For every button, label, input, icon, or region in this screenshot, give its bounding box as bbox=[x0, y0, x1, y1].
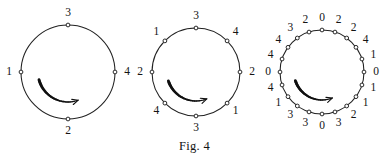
point-marker bbox=[360, 83, 364, 87]
point-marker bbox=[345, 104, 349, 108]
point-marker bbox=[307, 110, 311, 114]
point-label: 1 bbox=[233, 104, 239, 116]
diagram-circle-20-points: 02241011230331404432 bbox=[265, 11, 379, 131]
point-label: 2 bbox=[137, 65, 143, 77]
circle-outline bbox=[280, 30, 364, 114]
point-marker bbox=[225, 101, 229, 105]
point-label: 3 bbox=[336, 116, 342, 128]
figure-svg: 34213421342102241011230331404432 bbox=[0, 0, 389, 162]
point-label: 4 bbox=[124, 65, 130, 77]
point-marker bbox=[320, 112, 324, 116]
point-label: 0 bbox=[319, 119, 325, 131]
point-label: 2 bbox=[336, 13, 342, 25]
point-label: 1 bbox=[275, 96, 281, 108]
point-marker bbox=[194, 114, 198, 118]
point-marker bbox=[360, 57, 364, 61]
point-marker bbox=[354, 45, 358, 49]
point-label: 1 bbox=[6, 65, 12, 77]
point-marker bbox=[345, 36, 349, 40]
diagram-circle-8-points: 34213421 bbox=[137, 9, 255, 133]
point-label: 3 bbox=[287, 21, 293, 33]
point-label: 4 bbox=[233, 25, 239, 37]
point-label: 1 bbox=[363, 96, 369, 108]
point-label: 1 bbox=[370, 48, 376, 60]
figure-container: 34213421342102241011230331404432 Fig. 4 bbox=[0, 0, 389, 162]
point-marker bbox=[19, 70, 23, 74]
point-marker bbox=[280, 83, 284, 87]
point-marker bbox=[286, 95, 290, 99]
point-label: 4 bbox=[268, 81, 274, 93]
point-marker bbox=[333, 30, 337, 34]
point-label: 2 bbox=[65, 124, 71, 136]
point-marker bbox=[238, 70, 242, 74]
point-marker bbox=[113, 70, 117, 74]
point-label: 4 bbox=[268, 48, 274, 60]
point-label: 0 bbox=[319, 11, 325, 23]
point-marker bbox=[150, 70, 154, 74]
point-label: 3 bbox=[287, 108, 293, 120]
point-label: 4 bbox=[275, 33, 281, 45]
point-marker bbox=[225, 39, 229, 43]
point-marker bbox=[286, 45, 290, 49]
point-label: 0 bbox=[265, 65, 271, 77]
point-label: 4 bbox=[154, 104, 160, 116]
point-marker bbox=[333, 110, 337, 114]
point-marker bbox=[278, 70, 282, 74]
point-label: 3 bbox=[193, 121, 199, 133]
point-marker bbox=[362, 70, 366, 74]
point-label: 2 bbox=[249, 65, 255, 77]
point-label: 3 bbox=[65, 6, 71, 18]
diagram-circle-4-points: 3421 bbox=[6, 6, 130, 136]
point-label: 2 bbox=[302, 13, 308, 25]
point-marker bbox=[163, 39, 167, 43]
point-marker bbox=[280, 57, 284, 61]
point-label: 0 bbox=[373, 65, 379, 77]
point-label: 2 bbox=[351, 108, 357, 120]
point-label: 3 bbox=[302, 116, 308, 128]
point-label: 1 bbox=[370, 81, 376, 93]
point-label: 4 bbox=[363, 33, 369, 45]
circle-outline bbox=[21, 25, 115, 119]
figure-caption: Fig. 4 bbox=[0, 139, 389, 154]
point-marker bbox=[194, 26, 198, 30]
point-marker bbox=[66, 117, 70, 121]
point-label: 2 bbox=[351, 21, 357, 33]
point-label: 1 bbox=[154, 25, 160, 37]
point-marker bbox=[295, 104, 299, 108]
point-marker bbox=[163, 101, 167, 105]
point-label: 3 bbox=[193, 9, 199, 21]
point-marker bbox=[307, 30, 311, 34]
point-marker bbox=[66, 23, 70, 27]
point-marker bbox=[295, 36, 299, 40]
point-marker bbox=[320, 28, 324, 32]
point-marker bbox=[354, 95, 358, 99]
